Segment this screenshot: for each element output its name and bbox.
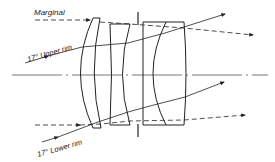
label-lower-rim: 17° Lower rim bbox=[36, 137, 83, 158]
negative-lens bbox=[110, 24, 130, 125]
label-upper-rim: 17° Upper rim bbox=[26, 42, 73, 63]
front-meniscus-lens bbox=[81, 18, 102, 128]
lens-diagram: Marginal 17° Upper rim 17° Lower rim bbox=[0, 0, 275, 162]
lower-rim-ray-in bbox=[42, 137, 58, 142]
lower-rim-ray bbox=[58, 82, 224, 137]
label-marginal: Marginal bbox=[34, 8, 65, 17]
upper-rim-ray bbox=[48, 14, 225, 56]
